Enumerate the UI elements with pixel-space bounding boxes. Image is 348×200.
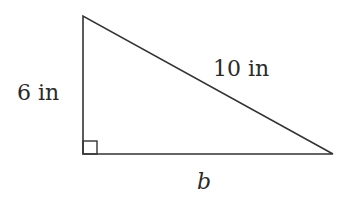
triangle-svg: 6 in 10 in b (0, 0, 348, 200)
right-angle-marker (83, 141, 97, 154)
right-triangle (83, 16, 333, 154)
left-side-label: 6 in (17, 80, 59, 105)
triangle-diagram: 6 in 10 in b (0, 0, 348, 200)
hypotenuse-label: 10 in (213, 56, 269, 81)
base-label: b (197, 169, 211, 194)
